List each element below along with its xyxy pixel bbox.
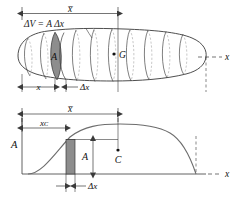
strip-height-label: A	[81, 151, 89, 162]
figure-container: ΔV = A Δx A G x x Δx x̅	[0, 0, 235, 203]
dim-x-label: x	[36, 82, 41, 92]
body-outline	[18, 28, 206, 81]
dim-xc-label: xᴄ	[39, 118, 49, 128]
axis-A-label-text: A	[10, 139, 18, 150]
slice-area-label: A	[50, 51, 58, 62]
dim-xbar-top-label: x̅	[67, 4, 73, 14]
axis-x-bottom-label: x	[224, 169, 230, 179]
bottom-panel: x̅ xᴄ A x A C	[10, 104, 230, 192]
diagram-svg: ΔV = A Δx A G x x Δx x̅	[0, 0, 235, 203]
dim-xbar-bottom-label: x̅	[67, 104, 73, 114]
centroid-point-c	[116, 148, 119, 151]
area-curve	[28, 124, 196, 174]
dim-xbar-bottom: x̅	[22, 104, 118, 122]
centroid-c-label: C	[115, 154, 122, 165]
strip-area-shaded	[66, 140, 75, 175]
dim-deltax-bottom: Δx	[56, 174, 97, 192]
dim-deltax-top: Δx	[66, 80, 89, 92]
volume-equation-label: ΔV = A Δx	[23, 19, 65, 29]
dim-deltax-bottom-label: Δx	[87, 181, 97, 191]
top-panel: ΔV = A Δx A G x x Δx x̅	[18, 4, 230, 92]
centroid-g-label: G	[119, 50, 126, 60]
centroid-point-g	[112, 52, 115, 55]
axis-x-top-label: x	[224, 52, 230, 62]
dim-deltax-top-label: Δx	[79, 82, 89, 92]
dim-xc: xᴄ	[22, 118, 66, 132]
